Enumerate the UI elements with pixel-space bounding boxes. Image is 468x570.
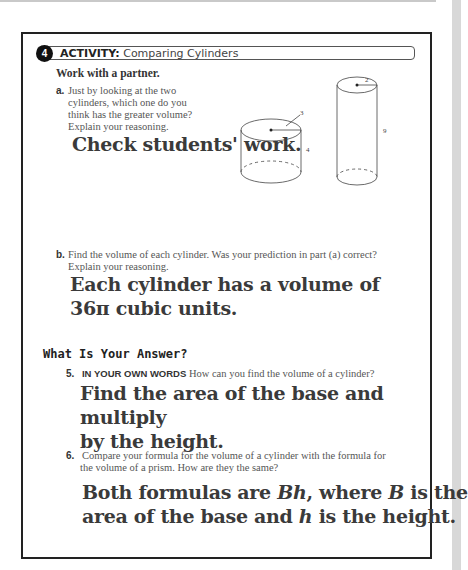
- question-number: 5.: [66, 368, 74, 379]
- question-lead: IN YOUR OWN WORDS: [82, 368, 186, 379]
- question-5: 5. IN YOUR OWN WORDS How can you find th…: [66, 368, 374, 380]
- text-line: the volume of a prism. How are they the …: [66, 462, 386, 474]
- radius-label-2: 2: [365, 76, 369, 84]
- text-line: Compare your formula for the volume of a…: [82, 450, 386, 461]
- text-line: Find the volume of each cylinder. Was yo…: [68, 249, 377, 261]
- section-title: What Is Your Answer?: [43, 347, 188, 361]
- instruction: Work with a partner.: [56, 67, 160, 79]
- question-letter: a.: [56, 85, 64, 96]
- activity-title-text: Comparing Cylinders: [123, 47, 238, 60]
- answer-line: Each cylinder has a volume of: [70, 272, 380, 296]
- answer-line: area of the base and h is the height.: [82, 504, 468, 528]
- question-text: How can you find the volume of a cylinde…: [189, 368, 374, 379]
- activity-number-badge: 4: [36, 45, 53, 62]
- cylinder-short: [241, 115, 301, 183]
- answer-6: Both formulas are Bh, where B is the are…: [82, 480, 468, 528]
- text-line: Just by looking at the two: [68, 85, 192, 97]
- question-number: 6.: [66, 450, 74, 461]
- question-b-text: Find the volume of each cylinder. Was yo…: [68, 249, 377, 273]
- radius-label-1: 3: [300, 109, 304, 117]
- cylinder-tall: [337, 77, 377, 185]
- text-line: think has the greater volume?: [68, 109, 192, 121]
- question-6: 6. Compare your formula for the volume o…: [66, 450, 386, 474]
- activity-label: ACTIVITY:: [60, 47, 120, 60]
- height-label-1: 4: [306, 146, 310, 154]
- answer-b: Each cylinder has a volume of 36π cubic …: [70, 272, 380, 320]
- height-label-2: 9: [383, 127, 387, 135]
- answer-line: Find the area of the base and multiply: [80, 381, 461, 429]
- answer-5: Find the area of the base and multiply b…: [80, 381, 461, 453]
- answer-line: 36π cubic units.: [70, 296, 380, 320]
- question-a-text: Just by looking at the two cylinders, wh…: [68, 85, 192, 133]
- question-letter: b.: [56, 249, 65, 260]
- text-line: cylinders, which one do you: [68, 97, 192, 109]
- top-rule: [0, 0, 436, 2]
- activity-title: ACTIVITY: Comparing Cylinders: [60, 47, 238, 60]
- answer-line: Both formulas are Bh, where B is the: [82, 480, 468, 504]
- cylinders-figure: 3 4 2 9: [220, 60, 420, 200]
